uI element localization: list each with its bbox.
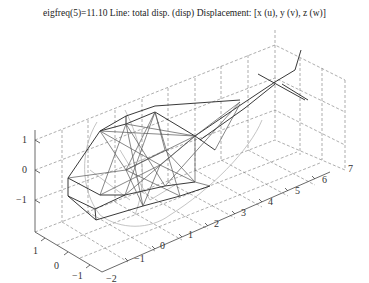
y-tick: −1 <box>72 270 83 281</box>
y-tick: 1 <box>33 245 38 256</box>
3d-wireframe-plot: 1 0 −1 1 0 −1 −2 −1 0 1 2 3 4 5 6 7 <box>0 0 369 283</box>
y-tick: −2 <box>106 273 117 283</box>
x-tick: 2 <box>214 218 219 229</box>
x-tick: −1 <box>134 253 145 264</box>
undeformed-frame <box>85 110 262 226</box>
z-tick: 0 <box>22 164 27 175</box>
x-tick: 4 <box>268 196 273 207</box>
y-tick: 0 <box>54 260 59 271</box>
x-tick: 5 <box>295 185 300 196</box>
x-tick-labels: −1 0 1 2 3 4 5 6 7 <box>134 163 353 264</box>
x-tick: 6 <box>322 174 327 185</box>
z-tick: 1 <box>22 134 27 145</box>
grid-lines <box>35 30 345 262</box>
x-tick: 1 <box>188 229 193 240</box>
z-tick: −1 <box>16 194 27 205</box>
x-tick: 3 <box>241 207 246 218</box>
z-tick-labels: 1 0 −1 <box>16 134 27 205</box>
y-tick-labels: 1 0 −1 −2 <box>33 245 117 283</box>
x-tick: 7 <box>348 163 353 174</box>
x-tick: 0 <box>160 240 165 251</box>
